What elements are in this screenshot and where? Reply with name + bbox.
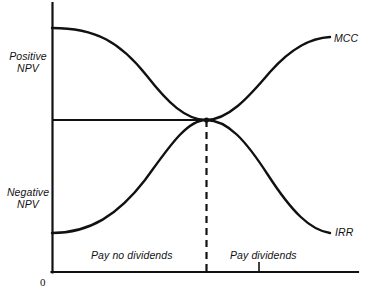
irr-curve bbox=[52, 28, 330, 233]
origin-label: 0 bbox=[40, 276, 46, 289]
npv-irr-mcc-chart: Positive NPV Negative NPV Pay no dividen… bbox=[0, 0, 365, 292]
negative-npv-line-1: Negative bbox=[7, 186, 49, 198]
y-axis-label-positive-npv: Positive NPV bbox=[6, 50, 50, 75]
intersection-point bbox=[204, 117, 209, 122]
positive-npv-line-2: NPV bbox=[17, 62, 39, 74]
negative-npv-line-2: NPV bbox=[17, 198, 39, 210]
curve-label-irr: IRR bbox=[335, 226, 353, 238]
chart-canvas bbox=[0, 0, 365, 292]
region-label-pay-dividends: Pay dividends bbox=[230, 249, 297, 261]
region-label-pay-no-dividends: Pay no dividends bbox=[91, 249, 173, 261]
positive-npv-line-1: Positive bbox=[9, 50, 47, 62]
y-axis-label-negative-npv: Negative NPV bbox=[3, 186, 53, 211]
curve-label-mcc: MCC bbox=[334, 32, 358, 44]
